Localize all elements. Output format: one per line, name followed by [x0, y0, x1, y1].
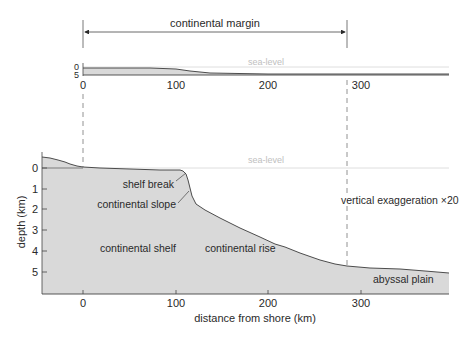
top-x-tick-100: 100	[167, 79, 185, 91]
x-tick-100: 100	[167, 297, 185, 309]
x-tick-300: 300	[352, 297, 370, 309]
y-tick-5: 5	[32, 266, 38, 278]
y-tick-3: 3	[32, 224, 38, 236]
top-x-tick-0: 0	[80, 79, 86, 91]
y-tick-1: 1	[32, 183, 38, 195]
abyssal-plain-label: abyssal plain	[373, 273, 434, 285]
y-tick-0: 0	[32, 162, 38, 174]
vertical-exaggeration-label: vertical exaggeration ×20	[341, 194, 459, 206]
y-tick-4: 4	[32, 245, 38, 257]
margin-title: continental margin	[170, 17, 260, 29]
top-x-tick-200: 200	[259, 79, 277, 91]
continental-margin-extent: continental margin	[83, 17, 347, 48]
continental-slope-label: continental slope	[97, 198, 176, 210]
x-tick-200: 200	[259, 297, 277, 309]
x-axis-label: distance from shore (km)	[194, 312, 316, 324]
continental-margin-diagram: continental margin sea-level 0 5 0 100 2…	[0, 0, 472, 337]
continental-shelf-label: continental shelf	[100, 242, 176, 254]
top-x-tick-300: 300	[352, 79, 370, 91]
y-axis-label: depth (km)	[15, 196, 27, 249]
continental-rise-label: continental rise	[205, 242, 276, 254]
top-sea-level-label: sea-level	[248, 57, 284, 67]
shelf-break-label: shelf break	[123, 178, 175, 190]
sea-level-label: sea-level	[248, 155, 284, 165]
true-scale-profile: sea-level 0 5 0 100 200 300	[74, 57, 449, 91]
y-tick-2: 2	[32, 203, 38, 215]
top-y-tick-5: 5	[74, 70, 79, 80]
x-tick-0: 0	[80, 297, 86, 309]
exaggerated-profile: sea-level 0 1 2 3 4 5 depth (km)	[15, 152, 459, 324]
